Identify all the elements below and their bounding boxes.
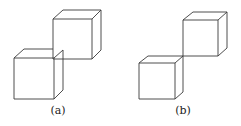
cube-b-lower <box>139 56 183 99</box>
cube-a-upper <box>53 10 101 59</box>
cubes-diagram <box>0 0 241 126</box>
figure-label-b: (b) <box>175 104 191 117</box>
cube-b-upper <box>183 12 227 56</box>
figure-label-a: (a) <box>50 104 65 117</box>
cube-a-lower <box>14 49 63 99</box>
